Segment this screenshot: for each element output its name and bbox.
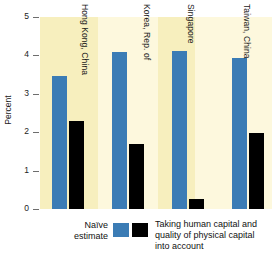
y-tick-label: 4 [0, 50, 29, 58]
category-label-text: Singapore [186, 4, 196, 44]
legend-adjusted-label: Taking human capital and quality of phys… [155, 219, 277, 252]
y-tick-mark [33, 171, 39, 172]
y-tick-label: 3 [0, 89, 29, 97]
bar-adjusted [189, 199, 204, 209]
category-label-text: Korea, Rep. of [142, 4, 152, 60]
y-tick-label: 2 [0, 127, 29, 135]
bar-adjusted [69, 121, 84, 209]
category-label: Hong Kong, China [84, 4, 95, 112]
legend-naive-line1: Naïve [60, 220, 108, 231]
chart-figure: Percent 543210 Hong Kong, ChinaKorea, Re… [0, 0, 278, 257]
category-label: Taiwan, China [246, 4, 257, 112]
legend-swatch-naive [113, 223, 129, 237]
bar-naive [172, 51, 187, 209]
category-label: Korea, Rep. of [146, 4, 157, 112]
y-tick-mark [33, 94, 39, 95]
bar-naive [52, 76, 67, 209]
y-tick-label: 1 [0, 166, 29, 174]
bar-naive [232, 58, 247, 209]
chart-legend: Naïve estimate Taking human capital and … [0, 214, 278, 257]
bar-naive [112, 52, 127, 209]
legend-adjusted-line2: quality of physical capital [155, 230, 277, 241]
legend-swatch-adjusted [132, 223, 148, 237]
y-tick-mark [33, 209, 39, 210]
legend-adjusted-line3: into account [155, 241, 277, 252]
bar-adjusted [129, 144, 144, 209]
y-axis-label-text: Percent [3, 95, 13, 124]
y-tick-label: 5 [0, 12, 29, 20]
category-label: Singapore [190, 4, 201, 112]
legend-adjusted-line1: Taking human capital and [155, 219, 277, 230]
bar-adjusted [249, 133, 264, 209]
category-label-text: Taiwan, China [242, 4, 252, 59]
y-tick-mark [33, 132, 39, 133]
legend-naive-label: Naïve estimate [60, 220, 108, 242]
y-tick-label: 0 [0, 204, 29, 212]
category-label-text: Hong Kong, China [80, 4, 90, 75]
y-tick-mark [33, 55, 39, 56]
legend-naive-line2: estimate [60, 231, 108, 242]
y-tick-mark [33, 17, 39, 18]
